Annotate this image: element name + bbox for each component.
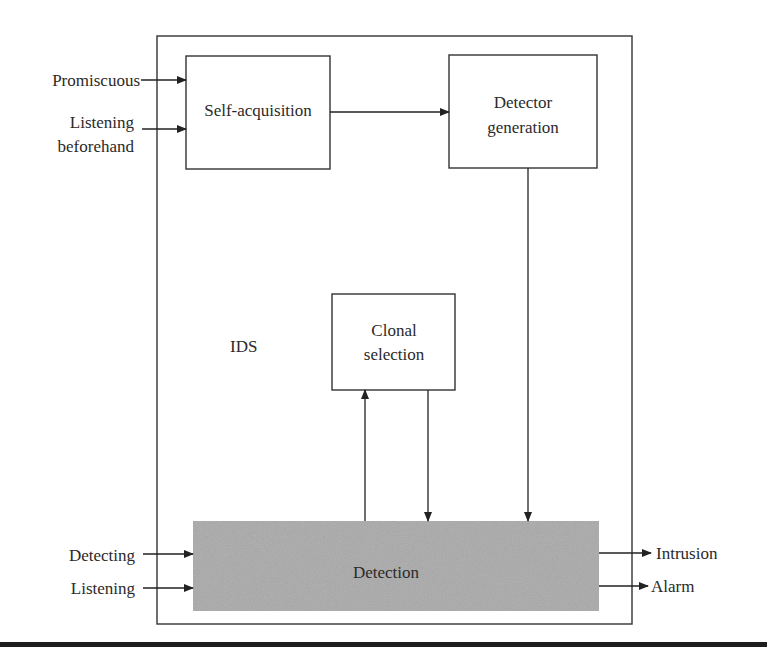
ids-diagram: IDS Self-acquisition Detector generation… — [0, 0, 767, 660]
ids-label: IDS — [230, 337, 257, 356]
input-listening-beforehand-line1: Listening — [70, 113, 135, 132]
clonal-selection-label-line1: Clonal — [371, 321, 417, 340]
detector-generation-box: Detector generation — [449, 55, 597, 168]
output-alarm-label: Alarm — [651, 577, 694, 596]
bottom-rule — [0, 642, 767, 647]
output-intrusion-label: Intrusion — [656, 544, 718, 563]
detection-label: Detection — [353, 563, 420, 582]
input-listening-label: Listening — [71, 579, 136, 598]
detection-box: Detection — [193, 521, 599, 611]
input-detecting-label: Detecting — [69, 546, 136, 565]
detector-generation-label-line1: Detector — [494, 93, 553, 112]
self-acquisition-box: Self-acquisition — [186, 56, 330, 169]
input-listening-beforehand-line2: beforehand — [58, 137, 135, 156]
detector-generation-label-line2: generation — [487, 118, 559, 137]
clonal-selection-box: Clonal selection — [332, 294, 455, 390]
input-promiscuous-label: Promiscuous — [52, 71, 140, 90]
self-acquisition-label: Self-acquisition — [204, 101, 312, 120]
clonal-selection-label-line2: selection — [364, 345, 425, 364]
